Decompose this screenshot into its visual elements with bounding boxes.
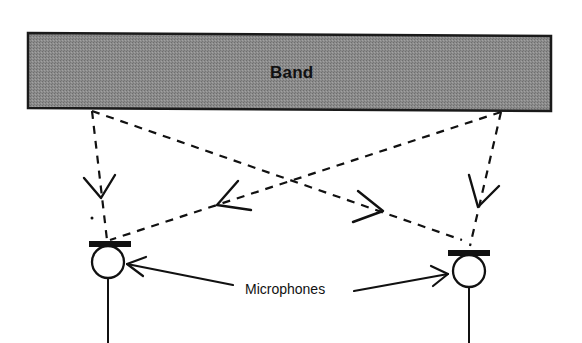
- band-label: Band: [270, 63, 330, 83]
- mic-right-head-icon: [453, 255, 485, 287]
- dashed-path-left-cross: [92, 111, 462, 240]
- dashed-path-right-cross: [110, 112, 501, 240]
- mic-left-head-icon: [92, 246, 124, 278]
- diagram-canvas: Band Microphones: [0, 0, 582, 343]
- arrowhead-left-icon: [217, 181, 251, 210]
- microphone-right: [448, 250, 490, 343]
- microphones-label: Microphones: [245, 281, 325, 297]
- stray-dot: [91, 217, 94, 220]
- microphone-left: [89, 241, 131, 343]
- dashed-path-left-down: [92, 111, 107, 240]
- label-arrow-right: [354, 274, 448, 291]
- label-arrow-left: [127, 264, 233, 285]
- arrowhead-down-right-icon: [469, 175, 499, 207]
- dashed-path-right-down: [470, 112, 501, 246]
